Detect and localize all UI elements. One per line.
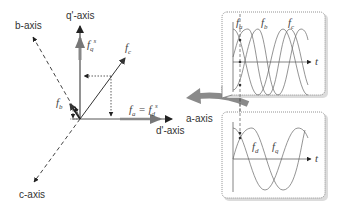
q-prime-axis-label: q'-axis (66, 11, 95, 21)
transformation-diagram: q'-axis b-axis c-axis a-axis d'-axis fqs… (0, 0, 342, 211)
fb-vector (70, 104, 80, 119)
panel-dq-t-label: t (315, 153, 318, 164)
fb-label: fb (56, 97, 63, 111)
b-axis-label: b-axis (15, 21, 42, 31)
panel-abc-fc-label: fc (288, 17, 294, 31)
panel-abc-fa-label: fa (236, 17, 243, 31)
panel-abc-fb-label: fb (261, 17, 268, 31)
fc-vector (80, 58, 125, 119)
diagram-canvas (0, 0, 342, 211)
fc-label: fc (125, 42, 131, 56)
panel-abc-t-label: t (315, 56, 318, 67)
panel-dq-fq-label: fq (272, 141, 279, 155)
fa-equals-fd-label: fa = fds (129, 103, 158, 118)
c-axis (34, 119, 80, 182)
a-axis-label: a-axis (186, 114, 213, 124)
c-axis-label: c-axis (19, 190, 45, 200)
fq-s-label: fqs (87, 38, 96, 53)
d-prime-axis-label: d'-axis (156, 126, 185, 136)
panel-dq-fd-label: fd (252, 141, 259, 155)
